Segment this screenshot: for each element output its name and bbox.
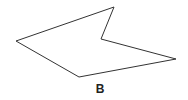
figure-canvas: B	[0, 0, 188, 100]
polygon-b	[16, 7, 176, 77]
figure-label: B	[92, 82, 108, 96]
